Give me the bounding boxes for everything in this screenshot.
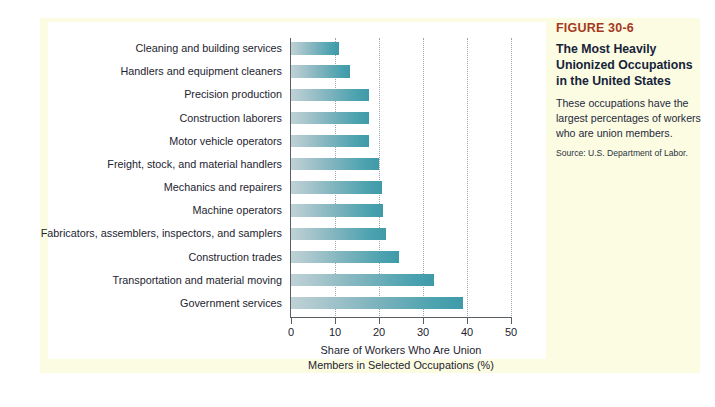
bar-row: Cleaning and building services xyxy=(291,38,511,59)
category-label: Fabricators, assemblers, inspectors, and… xyxy=(41,224,282,242)
x-axis-title-line-1: Share of Workers Who Are Union xyxy=(291,343,511,358)
bar-row: Freight, stock, and material handlers xyxy=(291,154,511,175)
bar xyxy=(291,274,434,286)
x-tick-40 xyxy=(467,318,468,324)
bar xyxy=(291,297,463,309)
caption-column: FIGURE 30-6 The Most Heavily Unionized O… xyxy=(556,22,704,159)
x-axis-line xyxy=(290,317,512,318)
category-label: Construction trades xyxy=(188,248,282,266)
bar xyxy=(291,204,383,216)
figure-title-line-1: The Most Heavily xyxy=(556,41,704,57)
bar-row: Mechanics and repairers xyxy=(291,177,511,198)
bar-row: Construction trades xyxy=(291,247,511,268)
x-tick-50 xyxy=(511,318,512,324)
bar xyxy=(291,251,399,263)
x-tick-label-0: 0 xyxy=(288,326,294,338)
x-tick-30 xyxy=(423,318,424,324)
bar-row: Motor vehicle operators xyxy=(291,131,511,152)
x-axis-title: Share of Workers Who Are Union Members i… xyxy=(291,343,511,372)
gridline-50 xyxy=(511,38,512,318)
category-label: Freight, stock, and material handlers xyxy=(107,155,282,173)
figure-title-line-2: Unionized Occupations xyxy=(556,57,704,73)
category-label: Handlers and equipment cleaners xyxy=(121,62,282,80)
bar-row: Construction laborers xyxy=(291,108,511,129)
category-label: Mechanics and repairers xyxy=(164,178,282,196)
x-tick-label-50: 50 xyxy=(505,326,517,338)
figure-source: Source: U.S. Department of Labor. xyxy=(556,148,704,159)
x-tick-label-10: 10 xyxy=(329,326,341,338)
bar xyxy=(291,228,386,240)
x-tick-label-20: 20 xyxy=(373,326,385,338)
bar-row: Precision production xyxy=(291,84,511,105)
category-label: Construction laborers xyxy=(179,109,282,127)
bar xyxy=(291,42,339,54)
figure-title-line-3: in the United States xyxy=(556,73,704,89)
bar xyxy=(291,158,379,170)
category-label: Government services xyxy=(180,294,282,312)
bar-row: Government services xyxy=(291,293,511,314)
category-label: Motor vehicle operators xyxy=(169,132,282,150)
bar xyxy=(291,135,369,147)
figure-description: These occupations have the largest perce… xyxy=(556,96,704,140)
bar-row: Machine operators xyxy=(291,200,511,221)
x-tick-20 xyxy=(379,318,380,324)
x-tick-10 xyxy=(335,318,336,324)
bar-plot-area: Cleaning and building servicesHandlers a… xyxy=(291,38,511,316)
bar xyxy=(291,89,369,101)
x-tick-0 xyxy=(291,318,292,324)
bar xyxy=(291,112,369,124)
category-label: Transportation and material moving xyxy=(113,271,282,289)
bar-row: Fabricators, assemblers, inspectors, and… xyxy=(291,223,511,244)
figure-number: FIGURE 30-6 xyxy=(556,22,704,36)
x-axis-title-line-2: Members in Selected Occupations (%) xyxy=(291,358,511,373)
bar xyxy=(291,65,350,77)
bar-row: Handlers and equipment cleaners xyxy=(291,61,511,82)
category-label: Cleaning and building services xyxy=(136,39,282,57)
category-label: Precision production xyxy=(184,85,282,103)
bar-row: Transportation and material moving xyxy=(291,270,511,291)
bar xyxy=(291,181,382,193)
x-tick-label-30: 30 xyxy=(417,326,429,338)
x-tick-label-40: 40 xyxy=(461,326,473,338)
category-label: Machine operators xyxy=(193,201,282,219)
figure-root: 01020304050 Cleaning and building servic… xyxy=(0,0,715,407)
figure-title: The Most Heavily Unionized Occupations i… xyxy=(556,41,704,90)
